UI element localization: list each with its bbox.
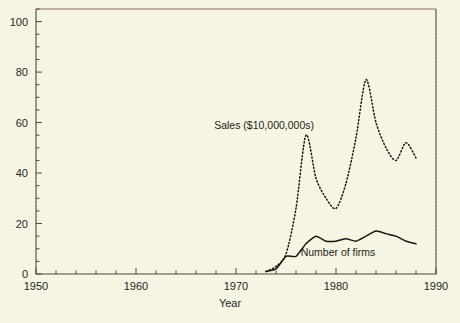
series-annotation-label: Number of firms: [301, 246, 376, 258]
x-axis-title: Year: [219, 297, 242, 309]
series-annotation-label: Sales ($10,000,000s): [214, 119, 314, 131]
chart-svg: 020406080100 19501960197019801990 Sales …: [0, 0, 460, 323]
y-tick-label: 80: [16, 66, 28, 78]
y-tick-label: 0: [22, 268, 28, 280]
chart-figure: 020406080100 19501960197019801990 Sales …: [0, 0, 460, 323]
x-tick-label: 1960: [124, 280, 148, 292]
y-tick-label: 60: [16, 117, 28, 129]
y-tick-label: 40: [16, 167, 28, 179]
y-tick-label: 20: [16, 218, 28, 230]
x-tick-label: 1980: [324, 280, 348, 292]
x-tick-label: 1990: [424, 280, 448, 292]
x-tick-label: 1950: [24, 280, 48, 292]
y-tick-label: 100: [10, 16, 28, 28]
x-tick-label: 1970: [224, 280, 248, 292]
